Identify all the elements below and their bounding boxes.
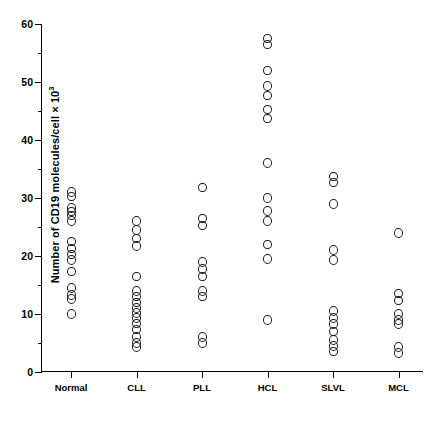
x-tick-label-slvl: SLVL [321,382,345,393]
y-tick-label: 50 [21,76,33,88]
data-point [67,192,76,202]
x-tick [137,371,138,378]
y-tick-minor [38,227,42,228]
x-tick-label-pll: PLL [193,382,211,393]
data-point [67,294,76,304]
data-point [263,206,272,216]
y-tick-label: 30 [21,192,33,204]
y-tick [35,256,42,257]
y-tick [35,82,42,83]
y-tick [35,198,42,199]
y-tick-label: 0 [27,366,33,378]
y-tick [35,372,42,373]
data-point [67,216,76,226]
y-tick-label: 40 [21,134,33,146]
x-tick-label-hcl: HCL [258,382,278,393]
data-point [263,158,272,168]
plot-area: 0102030405060NormalCLLPLLHCLSLVLMCL [41,24,423,372]
data-point [263,105,272,115]
y-tick-minor [38,285,42,286]
x-tick [202,371,203,378]
data-point [198,221,207,231]
x-tick [333,371,334,378]
x-tick [399,371,400,378]
y-tick-minor [38,111,42,112]
x-tick-label-normal: Normal [55,382,88,393]
y-tick [35,24,42,25]
data-point [394,296,403,306]
data-point [198,272,207,282]
y-tick [35,314,42,315]
data-point [263,114,272,124]
data-point [263,81,272,91]
data-point [132,342,141,352]
data-point [198,183,207,193]
data-point [263,193,272,203]
data-point [394,348,403,358]
y-tick-minor [38,169,42,170]
data-point [67,255,76,265]
data-point [132,272,141,282]
data-point [67,267,76,277]
data-point [263,315,272,325]
data-point [394,319,403,329]
data-point [394,228,403,238]
data-point [263,240,272,250]
data-point [329,245,338,255]
data-point [198,292,207,302]
y-tick [35,140,42,141]
data-point [263,40,272,50]
x-tick [268,371,269,378]
x-tick [71,371,72,378]
y-tick-label: 20 [21,250,33,262]
data-point [329,347,338,357]
data-point [198,338,207,348]
y-tick-label: 10 [21,308,33,320]
data-point [263,66,272,76]
data-point [329,255,338,265]
data-point [329,178,338,188]
data-point [263,254,272,264]
x-tick-label-cll: CLL [127,382,145,393]
data-point [132,241,141,251]
y-tick-label: 60 [21,18,33,30]
cd19-scatter-figure: Number of CD19 molecules/cell × 103 0102… [0,0,433,436]
data-point [263,216,272,226]
data-point [329,199,338,209]
y-tick-minor [38,53,42,54]
y-tick-minor [38,343,42,344]
data-point [263,91,272,101]
x-tick-label-mcl: MCL [388,382,409,393]
data-point [67,309,76,319]
